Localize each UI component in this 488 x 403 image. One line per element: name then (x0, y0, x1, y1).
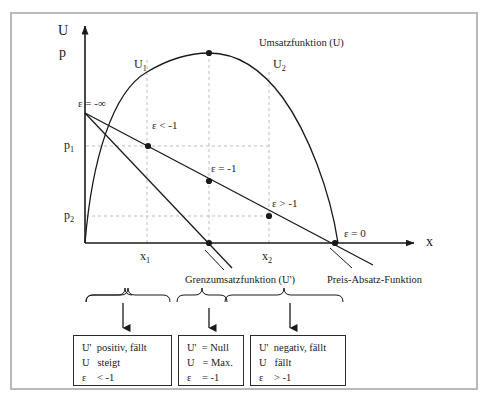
box-elastic-line1: U' positiv, fällt (82, 341, 171, 356)
umsatzfunktion-curve (85, 53, 338, 243)
point-eps-lt-neg1 (145, 143, 151, 149)
y-tick-p2: p2 (64, 209, 74, 225)
label-eps-eq-0: ε = 0 (344, 228, 366, 239)
point-eps-eq-0 (332, 240, 338, 246)
preis-absatz-funktion-label: Preis-Absatz-Funktion (327, 275, 422, 286)
box-inelastic-line1: U' negativ, fällt (259, 341, 345, 356)
box-unit-line1: U' = Null (187, 341, 243, 356)
label-eps-neg-inf: ε = -∞ (78, 98, 106, 109)
box-elastic-line2: U steigt (82, 356, 171, 371)
box-inelastic-line2: U fällt (259, 356, 345, 371)
box-unit: U' = Null U = Max. ε = -1 (178, 335, 244, 386)
point-u-prime-zero (206, 240, 212, 246)
diagram-canvas: U p x p1 p2 x1 x2 Umsatzfunktion (U) U1 … (0, 0, 488, 403)
apex-point (206, 50, 212, 56)
label-eps-eq-neg1: ε = -1 (211, 163, 237, 174)
box-elastic-line3: ε < -1 (82, 371, 171, 386)
point-eps-gt-neg1 (266, 213, 272, 219)
box-elastic: U' positiv, fällt U steigt ε < -1 (73, 335, 172, 386)
label-eps-lt-neg1: ε < -1 (152, 120, 178, 131)
point-eps-eq-neg1 (206, 178, 212, 184)
curve-label-u2: U2 (273, 58, 286, 74)
box-unit-line3: ε = -1 (187, 371, 243, 386)
box-inelastic: U' negativ, fällt U fällt ε > -1 (250, 335, 346, 386)
curve-label-u1: U1 (134, 58, 147, 74)
x-tick-x2: x2 (262, 250, 272, 266)
grouping-braces (86, 288, 343, 302)
box-inelastic-line3: ε > -1 (259, 371, 345, 386)
guide-lines (86, 53, 269, 243)
y-tick-p1: p1 (64, 139, 74, 155)
grenzumsatzfunktion-label: Grenzumsatzfunktion (U') (185, 275, 295, 286)
brace-arrows (123, 303, 290, 328)
x-axis-label: x (426, 235, 433, 249)
label-eps-gt-neg1: ε > -1 (272, 198, 298, 209)
box-unit-line2: U = Max. (187, 356, 243, 371)
leader-lines (205, 248, 352, 270)
y-axis-label-u: U (58, 24, 68, 38)
data-point-markers (145, 50, 338, 246)
umsatzfunktion-label: Umsatzfunktion (U) (259, 38, 344, 49)
x-tick-x1: x1 (140, 250, 150, 266)
y-axis-label-p: p (59, 46, 66, 60)
